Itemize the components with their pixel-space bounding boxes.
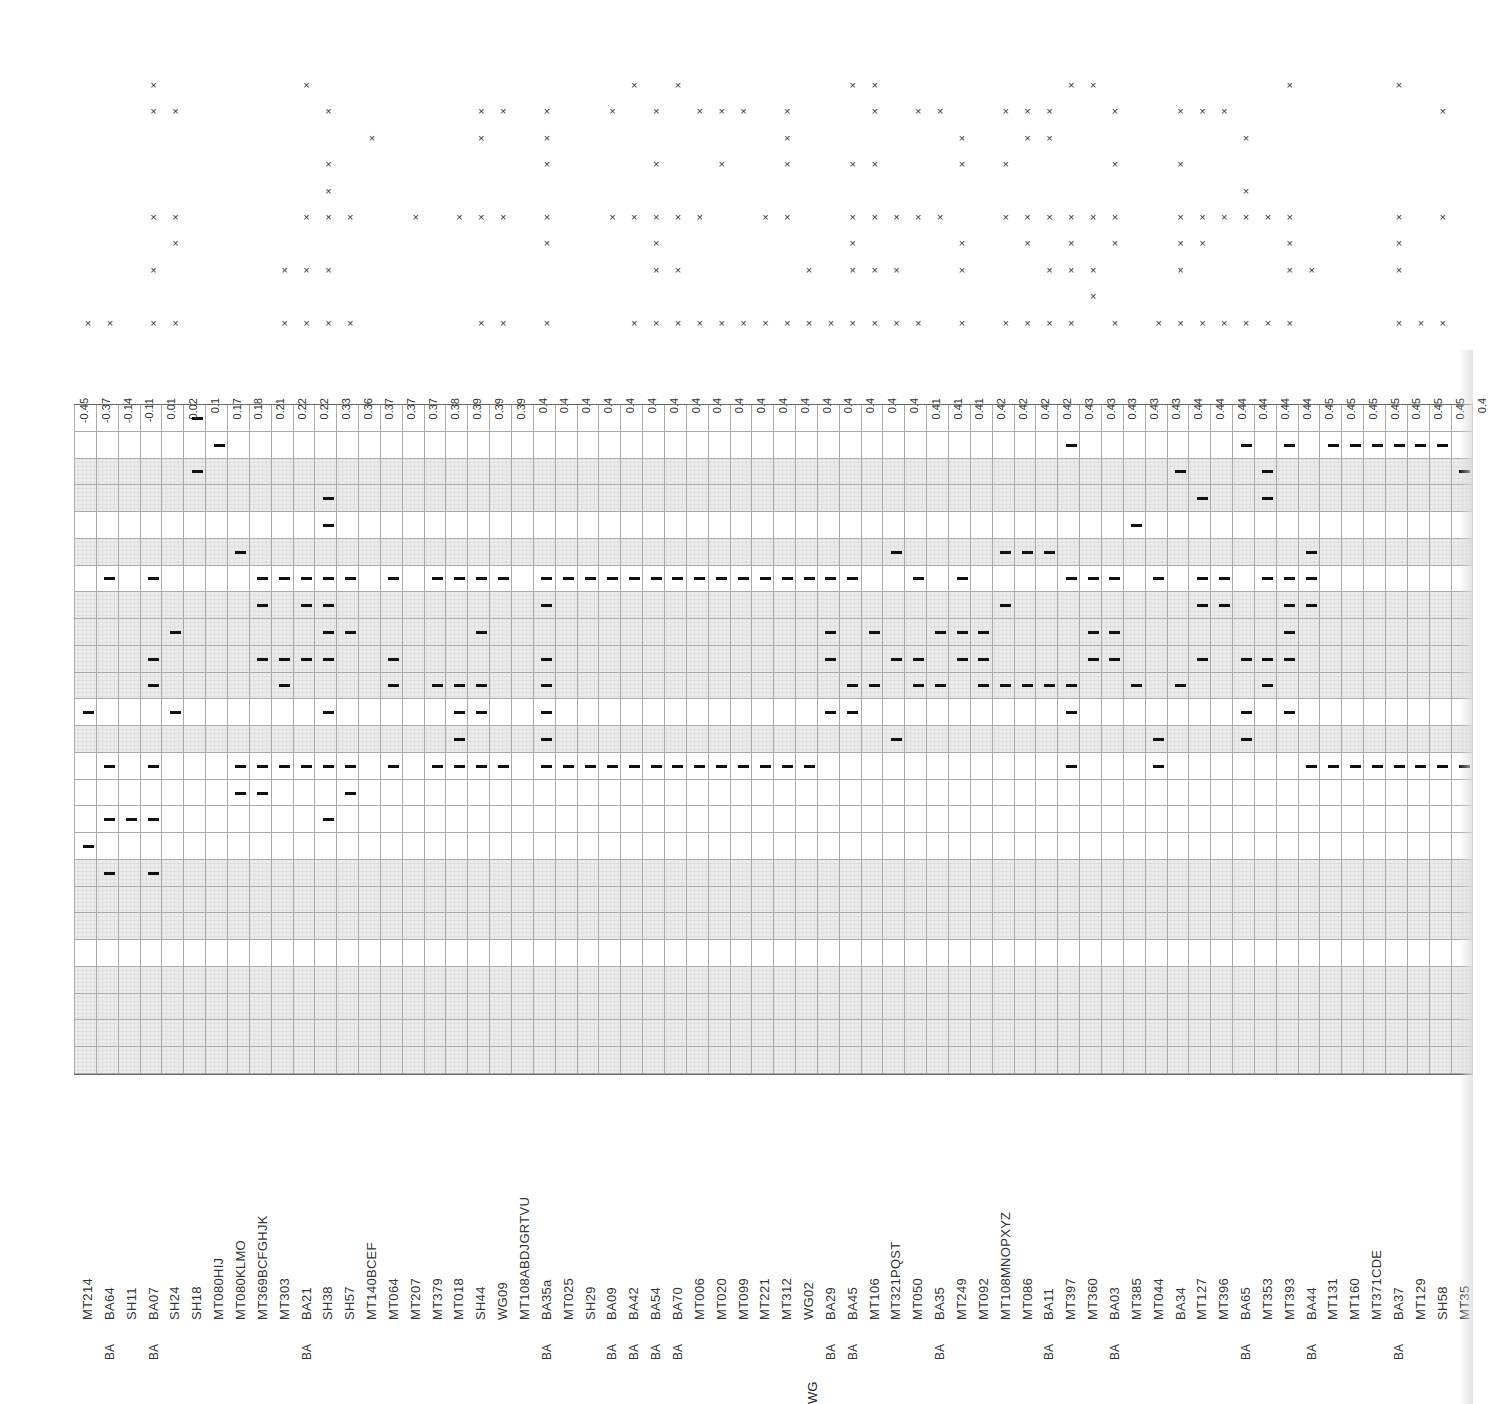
score-tick: 0.4 — [841, 342, 855, 398]
dash-mark — [847, 711, 858, 714]
dash-mark — [1000, 551, 1011, 554]
grid-column-line — [730, 405, 731, 1074]
grid-column-line — [904, 405, 905, 1074]
sample-label: BA35a — [540, 1120, 554, 1320]
cross-mark: × — [650, 318, 662, 329]
score-tick: 0.4 — [797, 342, 811, 398]
cross-mark: × — [1175, 238, 1187, 249]
sample-label: MT131 — [1326, 1120, 1340, 1320]
cross-mark: × — [1240, 318, 1252, 329]
cross-mark: × — [1109, 318, 1121, 329]
sample-label: BA44 — [1305, 1120, 1319, 1320]
cross-mark: × — [628, 318, 640, 329]
dash-mark — [214, 444, 225, 447]
dash-mark — [869, 631, 880, 634]
cross-mark: × — [322, 186, 334, 197]
character-grid — [74, 404, 1473, 1075]
cross-mark: × — [847, 212, 859, 223]
cross-mark: × — [1065, 80, 1077, 91]
score-tick: 0.45 — [1365, 342, 1379, 398]
cross-mark: × — [301, 265, 313, 276]
score-tick: 0.43 — [1125, 342, 1139, 398]
sample-label: MT127 — [1195, 1120, 1209, 1320]
cross-mark: × — [1393, 80, 1405, 91]
dash-mark — [454, 738, 465, 741]
sample-label: MT397 — [1064, 1120, 1078, 1320]
grid-column-line — [948, 405, 949, 1074]
cross-mark: × — [301, 212, 313, 223]
sample-label: MT025 — [562, 1120, 576, 1320]
cross-mark: × — [1218, 318, 1230, 329]
sample-label: MT086 — [1021, 1120, 1035, 1320]
score-tick: 0.39 — [491, 342, 505, 398]
grid-column-line — [1429, 405, 1430, 1074]
dash-mark — [1328, 444, 1339, 447]
group-label: BA — [824, 1330, 838, 1360]
group-label-wg: WG — [806, 1378, 820, 1404]
score-tick: 0.37 — [426, 342, 440, 398]
dash-mark — [1153, 577, 1164, 580]
score-tick: 0.4 — [1474, 342, 1488, 398]
sample-label: BA07 — [147, 1120, 161, 1320]
grid-column-line — [839, 405, 840, 1074]
cross-mark: × — [781, 318, 793, 329]
dash-mark — [83, 845, 94, 848]
cross-mark: × — [628, 80, 640, 91]
sample-label: MT092 — [977, 1120, 991, 1320]
dash-mark — [1197, 658, 1208, 661]
grid-column-line — [1014, 405, 1015, 1074]
dash-mark — [323, 524, 334, 527]
dash-mark — [978, 658, 989, 661]
dash-mark — [585, 577, 596, 580]
sample-label: BA11 — [1042, 1120, 1056, 1320]
dash-mark — [1131, 524, 1142, 527]
grid-column-line — [1319, 405, 1320, 1074]
sample-label: MT207 — [409, 1120, 423, 1320]
cross-mark: × — [1284, 238, 1296, 249]
dash-mark — [235, 765, 246, 768]
score-tick: 0.44 — [1256, 342, 1270, 398]
cross-mark: × — [322, 265, 334, 276]
dash-mark — [1044, 551, 1055, 554]
cross-mark: × — [869, 318, 881, 329]
dash-mark — [1306, 765, 1317, 768]
cross-mark: × — [1240, 133, 1252, 144]
score-tick: 0.42 — [994, 342, 1008, 398]
dash-mark — [1000, 604, 1011, 607]
score-tick: 0.17 — [229, 342, 243, 398]
grid-column-line — [773, 405, 774, 1074]
score-tick: 0.39 — [513, 342, 527, 398]
dash-mark — [301, 577, 312, 580]
cross-mark: × — [1284, 80, 1296, 91]
sample-label: MT379 — [431, 1120, 445, 1320]
dash-mark — [541, 604, 552, 607]
score-tick: 0.01 — [163, 342, 177, 398]
cross-mark: × — [453, 212, 465, 223]
cross-mark: × — [1109, 238, 1121, 249]
cross-mark: × — [169, 212, 181, 223]
dash-mark — [1284, 444, 1295, 447]
dash-mark — [148, 872, 159, 875]
dash-mark — [1000, 684, 1011, 687]
score-tick: 0.44 — [1278, 342, 1292, 398]
cross-mark: × — [1437, 318, 1449, 329]
grid-column-line — [424, 405, 425, 1074]
grid-column-line — [686, 405, 687, 1074]
score-tick: 0.45 — [1321, 342, 1335, 398]
cross-mark: × — [1065, 318, 1077, 329]
cross-mark: × — [1087, 265, 1099, 276]
cross-mark: × — [148, 80, 160, 91]
score-tick: 0.4 — [863, 342, 877, 398]
dash-mark — [651, 577, 662, 580]
dash-mark — [672, 765, 683, 768]
dash-mark — [323, 497, 334, 500]
score-tick: 0.4 — [688, 342, 702, 398]
sample-label: MT360 — [1086, 1120, 1100, 1320]
group-label: BA — [1108, 1330, 1122, 1360]
cross-mark: × — [781, 212, 793, 223]
dash-mark — [585, 765, 596, 768]
dash-mark — [476, 711, 487, 714]
grid-column-line — [598, 405, 599, 1074]
cross-mark: × — [1065, 265, 1077, 276]
sample-label: BA64 — [103, 1120, 117, 1320]
